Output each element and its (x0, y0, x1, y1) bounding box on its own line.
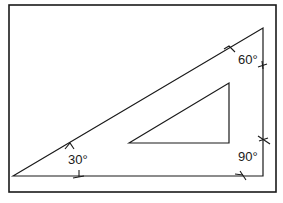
angle-30-label: 30° (68, 152, 88, 167)
set-square-diagram: 30° 60° 90° (0, 0, 283, 203)
angle-60-label: 60° (238, 52, 258, 67)
outer-frame (9, 5, 276, 192)
outer-triangle (13, 28, 263, 176)
angle-90-label: 90° (238, 149, 258, 164)
inner-triangle-cutout (129, 83, 229, 143)
